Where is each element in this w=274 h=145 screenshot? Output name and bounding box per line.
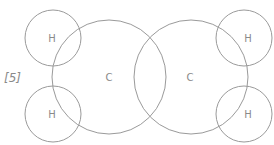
carbon-left-label: C	[106, 72, 113, 83]
marks-label: [5]	[4, 71, 21, 85]
hydrogen-bottom-left-label: H	[48, 109, 56, 120]
hydrogen-top-left-label: H	[48, 33, 56, 44]
hydrogen-bottom-right-label: H	[244, 109, 252, 120]
ethene-dot-cross-diagram: C C H H H H [5]	[0, 0, 274, 145]
carbon-right-label: C	[187, 72, 194, 83]
hydrogen-top-right-label: H	[244, 33, 252, 44]
